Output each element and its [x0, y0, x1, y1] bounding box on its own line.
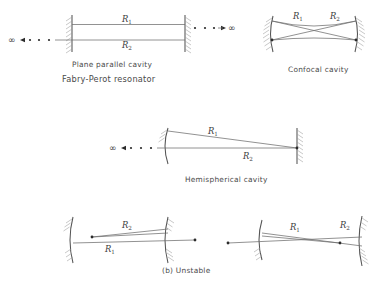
- caption-plane-parallel: Plane parallel cavity: [72, 60, 152, 69]
- figure-caption-unstable: (b) Unstable: [162, 266, 211, 275]
- label-r1: R1: [207, 126, 218, 137]
- focus-dot-left: [91, 236, 94, 239]
- caption-confocal: Confocal cavity: [288, 65, 349, 74]
- mirror-right-concave: [359, 216, 369, 266]
- ray-bow-bottom: [272, 38, 356, 40]
- label-r2: R2: [121, 220, 132, 231]
- mirror-left-plane: [66, 15, 72, 53]
- mirror-right-hatching: [185, 17, 191, 53]
- focus-dot-left: [271, 39, 274, 42]
- arrow-dots-left: [20, 38, 72, 42]
- mirror-left-concave: [159, 128, 169, 164]
- diagram-plane-parallel: R1 R2 ∞ ∞ Plane parallel cavity Fabry-Pe…: [8, 14, 236, 84]
- mirror-right-plane: [185, 15, 191, 53]
- diagram-hemispherical: R1 R2 ∞ Hemispherical cavity: [109, 126, 303, 184]
- label-r1: R1: [289, 222, 300, 233]
- label-r2: R2: [121, 40, 132, 51]
- label-r2: R2: [339, 220, 350, 231]
- mirror-left-concave: [263, 16, 273, 52]
- mirror-left-hatching: [66, 17, 72, 53]
- optical-cavity-figure: R1 R2 ∞ ∞ Plane parallel cavity Fabry-Pe…: [0, 0, 389, 282]
- diagram-confocal: R1 R2 Confocal cavity: [263, 11, 365, 74]
- focus-dot-right: [355, 39, 358, 42]
- mirror-right-hatching: [166, 219, 175, 261]
- infinity-left: ∞: [109, 143, 117, 153]
- infinity-left: ∞: [8, 35, 16, 45]
- arrow-dots-left: [121, 146, 168, 150]
- label-r1: R1: [121, 14, 132, 25]
- mirror-right-hatching: [297, 130, 303, 162]
- diagram-unstable-left: R2 R1: [64, 217, 197, 263]
- mirror-right-concave: [165, 217, 174, 263]
- focus-dot-right: [339, 242, 342, 245]
- infinity-right: ∞: [228, 23, 236, 33]
- mirror-left-concave: [64, 217, 74, 263]
- label-r2: R2: [329, 11, 340, 22]
- focus-dot-right: [296, 147, 299, 150]
- ray-upper: [168, 131, 297, 148]
- mirror-right-concave: [355, 16, 365, 52]
- ray-axis: [73, 240, 195, 243]
- ray-cross-b: [262, 236, 340, 243]
- ray-upper-b: [92, 233, 168, 237]
- ray-bow-top: [272, 21, 356, 26]
- ray-cross: [262, 233, 362, 246]
- label-r2: R2: [242, 151, 253, 162]
- label-r1: R1: [292, 11, 303, 22]
- arrow-dots-right: [194, 26, 226, 30]
- ray-axis: [228, 237, 362, 243]
- focus-dot-left: [227, 242, 230, 245]
- caption-fabry-perot: Fabry-Perot resonator: [62, 74, 156, 84]
- focus-dot-right: [194, 239, 197, 242]
- caption-hemispherical: Hemispherical cavity: [185, 175, 268, 184]
- mirror-right-plane: [297, 128, 303, 164]
- diagram-unstable-right: R1 R2: [227, 216, 369, 266]
- mirror-left-concave: [254, 220, 262, 260]
- label-r1: R1: [104, 244, 115, 255]
